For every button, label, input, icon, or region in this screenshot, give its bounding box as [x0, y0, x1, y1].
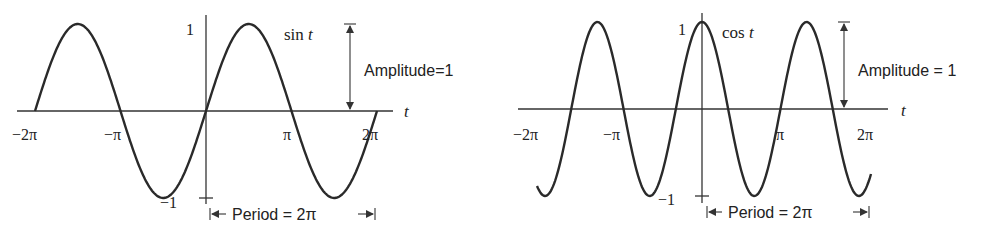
cos-curve-label: cos t: [722, 23, 755, 42]
sin-x-tick-negpi: −π: [104, 126, 121, 143]
cos-x-tick-negpi: −π: [603, 126, 620, 143]
sin-x-tick-2pi: 2π: [362, 126, 378, 143]
cos-y-tick-top: 1: [678, 21, 686, 38]
sin-fn-var: t: [308, 25, 314, 44]
sin-period-label: Period = 2π: [232, 206, 316, 223]
sin-curve-label: sin t: [284, 25, 314, 44]
cos-x-tick-neg2pi: −2π: [513, 126, 538, 143]
cos-fn-var: t: [749, 23, 755, 42]
sin-x-axis-label: t: [404, 102, 410, 121]
sin-y-tick-top: 1: [186, 21, 194, 38]
cos-x-tick-pi: π: [776, 126, 784, 143]
cos-x-axis-label: t: [901, 101, 907, 120]
cos-fn-name: cos: [722, 23, 745, 42]
sin-plot: 1 −1 −2π −π π 2π t sin t Amplitude=1 Per…: [12, 15, 453, 223]
sin-x-tick-neg2pi: −2π: [12, 126, 37, 143]
sin-fn-name: sin: [284, 25, 304, 44]
sin-y-tick-bottom: −1: [160, 194, 177, 211]
cos-x-tick-2pi: 2π: [857, 126, 873, 143]
sin-x-tick-pi: π: [283, 126, 291, 143]
sin-amplitude-label: Amplitude=1: [364, 62, 453, 79]
cos-plot: 1 −1 −2π −π π 2π t cos t Amplitude = 1 P…: [513, 13, 956, 221]
cos-y-tick-bottom: −1: [658, 191, 675, 208]
cos-period-label: Period = 2π: [728, 204, 812, 221]
cos-amplitude-label: Amplitude = 1: [858, 62, 956, 79]
